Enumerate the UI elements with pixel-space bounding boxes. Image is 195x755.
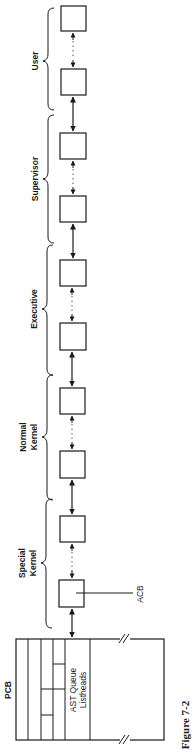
pcb-block: AST Queue Listheads bbox=[16, 634, 164, 744]
acb-box-supervisor-1 bbox=[60, 133, 86, 159]
acb-box-user-1 bbox=[61, 6, 86, 31]
ast-queue-label-1: AST Queue bbox=[68, 668, 78, 713]
acb-box-special-kernel-1 bbox=[60, 516, 85, 542]
braces bbox=[41, 8, 54, 628]
brace-user bbox=[43, 8, 54, 110]
brace-special-kernel bbox=[41, 499, 52, 628]
acb-box-normal-kernel-2 bbox=[60, 451, 85, 478]
acb-box-normal-kernel-1 bbox=[60, 388, 85, 414]
label-user: User bbox=[30, 51, 40, 71]
label-normal-kernel-1: Normal bbox=[18, 422, 28, 451]
acb-box-user-2 bbox=[61, 69, 86, 95]
label-special-kernel-2: Kernel bbox=[28, 550, 38, 576]
acb-box-executive-2 bbox=[60, 323, 86, 350]
ast-queue-diagram: User Supervisor Executive Normal Kernel … bbox=[0, 0, 195, 755]
label-executive: Executive bbox=[29, 289, 39, 329]
brace-executive bbox=[42, 245, 53, 375]
acb-box-supervisor-2 bbox=[60, 196, 86, 222]
brace-supervisor bbox=[43, 115, 54, 243]
label-normal-kernel-2: Kernel bbox=[29, 424, 39, 450]
pcb-label: PCB bbox=[3, 681, 13, 699]
acb-label: ACB bbox=[135, 585, 145, 603]
label-supervisor: Supervisor bbox=[30, 156, 40, 201]
group-labels: User Supervisor Executive Normal Kernel … bbox=[17, 51, 40, 578]
label-special-kernel-1: Special bbox=[17, 548, 27, 578]
figure-caption: Figure 7-2 bbox=[179, 700, 191, 749]
brace-normal-kernel bbox=[42, 375, 53, 500]
ast-queue-label-2: Listheads bbox=[78, 672, 88, 708]
acb-box-executive-1 bbox=[60, 260, 86, 286]
